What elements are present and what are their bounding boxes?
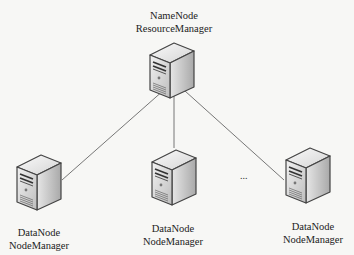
worker-1-label: DataNode NodeManager (0, 226, 94, 252)
worker-3-server-icon (284, 146, 332, 204)
master-role-1: NameNode (119, 9, 229, 22)
connection-lines (0, 0, 354, 255)
worker-2-server-icon (150, 148, 198, 206)
worker-3-role-2: NodeManager (258, 233, 354, 246)
master-label: NameNode ResourceManager (119, 9, 229, 35)
worker-1-server-icon (15, 153, 63, 211)
more-nodes-ellipsis: ... (240, 170, 248, 181)
worker-2-label: DataNode NodeManager (118, 222, 228, 248)
master-server-icon (148, 41, 196, 99)
worker-3-role-1: DataNode (258, 220, 354, 233)
worker-1-role-2: NodeManager (0, 239, 94, 252)
worker-1-role-1: DataNode (0, 226, 94, 239)
worker-2-role-2: NodeManager (118, 235, 228, 248)
worker-3-label: DataNode NodeManager (258, 220, 354, 246)
master-role-2: ResourceManager (119, 22, 229, 35)
worker-2-role-1: DataNode (118, 222, 228, 235)
